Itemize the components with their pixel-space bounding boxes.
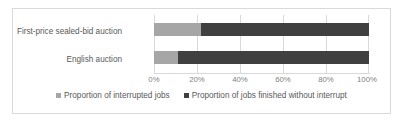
- bar-segment-finished: [201, 23, 369, 36]
- bar-row: [154, 23, 369, 36]
- x-axis-line: [154, 73, 370, 74]
- tick-label: 100%: [357, 75, 377, 84]
- tick-label: 60%: [275, 75, 291, 84]
- category-label-first-price: First-price sealed-bid auction: [0, 27, 122, 36]
- bar-segment-finished: [178, 51, 369, 64]
- tick-label: 80%: [318, 75, 334, 84]
- category-label-english: English auction: [0, 55, 122, 64]
- legend-label: Proportion of jobs finished without inte…: [192, 91, 347, 100]
- tick-label: 20%: [189, 75, 205, 84]
- legend-label: Proportion of interrupted jobs: [64, 91, 170, 100]
- x-axis-tick-labels: 0% 20% 40% 60% 80% 100%: [154, 75, 369, 87]
- tick-label: 40%: [232, 75, 248, 84]
- bar-segment-interrupted: [154, 23, 201, 36]
- bar-segment-interrupted: [154, 51, 178, 64]
- legend-swatch-icon: [56, 93, 61, 98]
- tick-label: 0%: [148, 75, 159, 84]
- legend-item-finished[interactable]: Proportion of jobs finished without inte…: [184, 91, 347, 100]
- chart-legend: Proportion of interrupted jobs Proportio…: [13, 91, 390, 100]
- legend-item-interrupted[interactable]: Proportion of interrupted jobs: [56, 91, 170, 100]
- chart-container: First-price sealed-bid auction English a…: [12, 8, 391, 114]
- legend-swatch-icon: [184, 93, 189, 98]
- bar-row: [154, 51, 369, 64]
- plot-area: [154, 15, 369, 73]
